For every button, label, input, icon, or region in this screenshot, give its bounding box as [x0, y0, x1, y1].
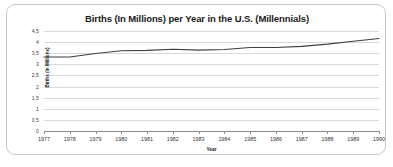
- y-axis-tick-label: 2: [13, 84, 39, 90]
- y-axis-tick-label: 1: [13, 106, 39, 112]
- x-axis-tick-mark: [96, 131, 97, 134]
- x-axis-tick-mark: [121, 131, 122, 134]
- chart-title: Births (In Millions) per Year in the U.S…: [7, 13, 387, 24]
- x-axis-tick-mark: [147, 131, 148, 134]
- x-axis-tick-mark: [173, 131, 174, 134]
- y-axis-tick-label: 0: [13, 128, 39, 134]
- y-axis-tick-label: 4: [13, 39, 39, 45]
- y-axis-tick-label: 3,5: [13, 50, 39, 56]
- y-axis-tick-label: 1,5: [13, 95, 39, 101]
- x-axis-title: Year: [44, 147, 379, 152]
- x-axis-tick-mark: [70, 131, 71, 134]
- x-axis-tick-mark: [250, 131, 251, 134]
- y-axis-tick-label: 3: [13, 61, 39, 67]
- x-axis-tick-mark: [276, 131, 277, 134]
- x-axis-tick-mark: [327, 131, 328, 134]
- x-axis-tick-mark: [302, 131, 303, 134]
- x-axis-tick-mark: [44, 131, 45, 134]
- y-axis-tick-label: 2,5: [13, 72, 39, 78]
- plot-area: 4,543,532,521,510,50 1977197819791980198…: [44, 31, 379, 131]
- x-axis-tick-mark: [353, 131, 354, 134]
- x-axis-line: [44, 131, 379, 132]
- x-axis-tick-mark: [199, 131, 200, 134]
- chart-container: Births (In Millions) per Year in the U.S…: [6, 4, 386, 155]
- y-axis-title: Births (In Millions): [45, 13, 50, 123]
- data-series-line: [44, 31, 379, 131]
- x-axis-tick-label: 1990: [364, 136, 393, 142]
- y-axis-tick-label: 4,5: [13, 28, 39, 34]
- x-axis-tick-mark: [224, 131, 225, 134]
- y-axis-tick-label: 0,5: [13, 117, 39, 123]
- x-axis-tick-mark: [379, 131, 380, 134]
